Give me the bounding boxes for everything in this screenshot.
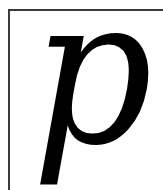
letter-frame: p <box>8 9 163 190</box>
italic-letter-p: p <box>32 0 153 174</box>
